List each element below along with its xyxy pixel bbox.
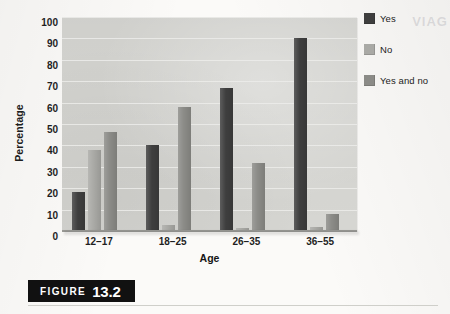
bar — [72, 192, 85, 231]
bar-shading — [326, 214, 339, 231]
legend-label: Yes — [380, 13, 396, 24]
bar — [104, 132, 117, 232]
y-axis-tick-label: 40 — [32, 145, 58, 156]
bar — [252, 163, 265, 231]
legend-label: No — [380, 44, 392, 55]
gridline — [62, 124, 357, 125]
y-axis-tick-labels: 0102030405060708090100 — [32, 11, 58, 237]
legend-color-swatch — [364, 75, 375, 86]
bar-shading — [88, 150, 101, 231]
bar-shading — [104, 132, 117, 232]
x-axis-tick-labels: 12–1718–2526–3536–55 — [62, 236, 357, 252]
gridline — [62, 38, 357, 39]
legend-label: Yes and no — [380, 75, 428, 86]
bar — [178, 107, 191, 231]
bar — [294, 38, 307, 231]
x-axis-baseline — [62, 230, 357, 232]
x-axis-tick-label: 18–25 — [136, 236, 210, 247]
bar — [220, 88, 233, 231]
x-axis-tick-label: 26–35 — [210, 236, 284, 247]
background-bleedthrough-text: VIAG — [412, 14, 448, 29]
figure-caption-word: FIGURE — [40, 286, 86, 297]
y-axis-title: Percentage — [13, 78, 25, 188]
y-axis-tick-label: 30 — [32, 167, 58, 178]
legend-item: Yes and no — [364, 75, 428, 86]
y-axis-tick-label: 70 — [32, 81, 58, 92]
bar-chart: Percentage 0102030405060708090100 12–171… — [0, 0, 450, 268]
legend-item: No — [364, 44, 392, 55]
y-axis-tick-label: 10 — [32, 210, 58, 221]
bar — [88, 150, 101, 231]
bar-shading — [178, 107, 191, 231]
y-axis-tick-label: 50 — [32, 124, 58, 135]
bar-shading — [72, 192, 85, 231]
caption-divider-rule — [28, 305, 438, 306]
plot-area — [62, 17, 357, 231]
y-axis-tick-label: 90 — [32, 38, 58, 49]
y-axis-tick-label: 0 — [32, 231, 58, 242]
gridline — [62, 103, 357, 104]
gridline — [62, 81, 357, 82]
legend-item: Yes — [364, 13, 396, 24]
x-axis-tick-label: 36–55 — [283, 236, 357, 247]
y-axis-tick-label: 20 — [32, 188, 58, 199]
bar-shading — [220, 88, 233, 231]
y-axis-tick-label: 60 — [32, 103, 58, 114]
bar-shading — [294, 38, 307, 231]
bar — [146, 145, 159, 231]
legend-color-swatch — [364, 44, 375, 55]
bar-shading — [252, 163, 265, 231]
figure-caption-banner: FIGURE 13.2 — [28, 280, 135, 302]
y-axis-tick-label: 80 — [32, 60, 58, 71]
figure-container: Percentage 0102030405060708090100 12–171… — [0, 0, 450, 314]
gridline — [62, 17, 357, 18]
legend-color-swatch — [364, 13, 375, 24]
gridline — [62, 60, 357, 61]
bar — [326, 214, 339, 231]
figure-caption-number: 13.2 — [92, 283, 120, 300]
y-axis-tick-label: 100 — [32, 17, 58, 28]
bar-shading — [146, 145, 159, 231]
x-axis-title: Age — [62, 252, 357, 264]
x-axis-tick-label: 12–17 — [62, 236, 136, 247]
